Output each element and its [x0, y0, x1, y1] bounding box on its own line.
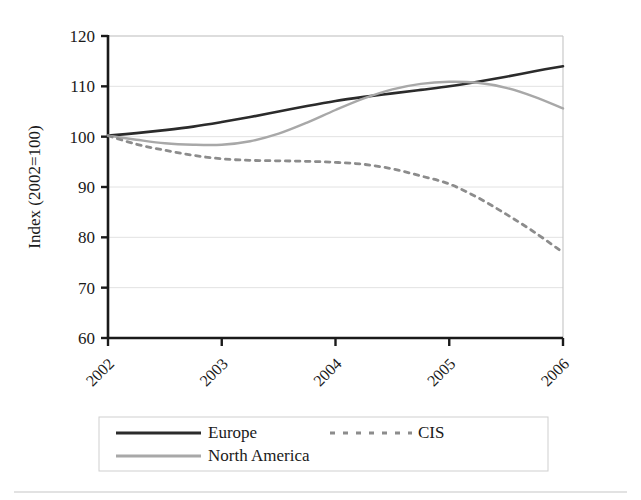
legend-label: North America: [208, 446, 310, 465]
y-axis-title: Index (2002=100): [25, 125, 44, 248]
y-tick-label: 60: [78, 329, 95, 348]
y-tick-label: 110: [70, 77, 95, 96]
y-tick-label: 90: [78, 178, 95, 197]
legend-label: Europe: [208, 423, 257, 442]
y-axis-title-text: Index (2002=100): [25, 125, 44, 248]
y-tick-label: 120: [70, 27, 96, 46]
y-tick-label: 80: [78, 228, 95, 247]
legend-box: [99, 417, 548, 471]
chart-figure: 60708090100110120 20022003200420052006 I…: [0, 0, 641, 500]
y-tick-label: 100: [70, 128, 96, 147]
legend-label: CIS: [418, 423, 444, 442]
line-chart: 60708090100110120 20022003200420052006 I…: [0, 0, 641, 500]
chart-legend: EuropeCISNorth America: [99, 417, 548, 471]
y-tick-label: 70: [78, 279, 95, 298]
